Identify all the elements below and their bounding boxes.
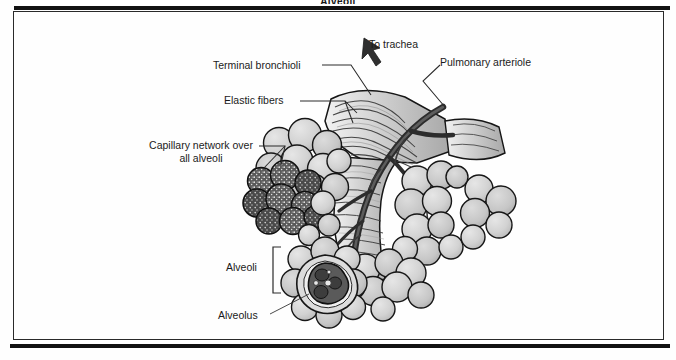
alveolus-cutaway	[281, 237, 367, 328]
figure-page: Alveoli	[0, 0, 676, 360]
leader-pulmonary-arteriole	[423, 65, 445, 107]
label-pulmonary-arteriole: Pulmonary arteriole	[440, 56, 531, 68]
bronchiole-right-stub	[445, 119, 505, 160]
label-alveoli: Alveoli	[226, 261, 257, 273]
label-elastic-fibers: Elastic fibers	[224, 94, 284, 106]
label-capillary-network: Capillary network over all alveoli	[143, 139, 259, 164]
label-terminal-bronchioli: Terminal bronchioli	[213, 59, 301, 71]
bottom-rule	[10, 344, 670, 348]
alveoli-illustration	[13, 11, 664, 340]
label-alveolus: Alveolus	[218, 309, 258, 321]
label-to-trachea: To trachea	[369, 38, 418, 50]
figure-caption: Alveoli	[0, 0, 676, 4]
top-rule	[14, 6, 670, 10]
square-bracket-icon	[273, 247, 281, 293]
